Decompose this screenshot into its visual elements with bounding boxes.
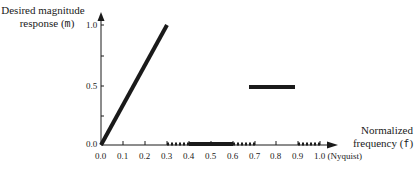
y-axis-label-line1: Desired magnitude — [0, 4, 86, 17]
x-tick-label: 0.2 — [139, 151, 150, 161]
x-tick-label: 0.3 — [161, 151, 172, 161]
x-axis-arrow-icon — [327, 142, 338, 149]
x-axis-label: Normalized frequency (f) — [340, 124, 416, 150]
x-axis-label-line1: Normalized — [340, 124, 416, 137]
y-tick-label: 0.0 — [86, 139, 97, 149]
x-tick-label: 1.0 (Nyquist) — [314, 151, 362, 161]
y-axis-arrow-icon — [98, 12, 105, 21]
x-tick-label: 0.9 — [292, 151, 303, 161]
y-tick-label: 1.0 — [86, 20, 97, 30]
band-1-ramp — [101, 25, 167, 145]
x-tick-label: 0.8 — [270, 151, 281, 161]
x-axis-label-line2: frequency (f) — [340, 137, 416, 150]
x-tick-label: 0.4 — [183, 151, 194, 161]
x-tick-label: 0.5 — [205, 151, 216, 161]
y-tick-label: 0.5 — [86, 81, 97, 91]
x-tick-label: 0.1 — [117, 151, 128, 161]
y-axis-label: Desired magnitude response (m) — [0, 4, 86, 30]
x-tick-label: 0.7 — [249, 151, 260, 161]
x-tick-label: 0.0 — [95, 151, 106, 161]
y-axis-label-line2: response (m) — [0, 17, 86, 30]
x-tick-label: 0.6 — [227, 151, 238, 161]
